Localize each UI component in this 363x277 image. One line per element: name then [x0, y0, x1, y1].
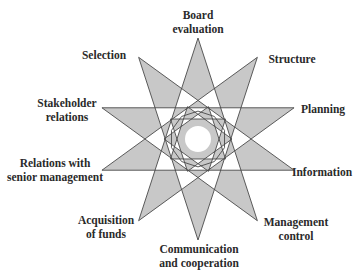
label-selection: Selection	[82, 48, 126, 62]
label-planning: Planning	[301, 102, 345, 116]
label-management-control: Management control	[264, 215, 329, 243]
label-line: and cooperation	[159, 256, 239, 270]
label-board-evaluation: Board evaluation	[172, 8, 223, 36]
label-line: relations	[37, 110, 96, 124]
label-line: control	[264, 229, 329, 243]
label-information: Information	[292, 165, 352, 179]
label-line: of funds	[78, 227, 134, 241]
label-line: Selection	[82, 48, 126, 62]
label-structure: Structure	[268, 52, 315, 66]
star-diagram: Board evaluation Structure Planning Info…	[0, 0, 363, 277]
label-line: Stakeholder	[37, 96, 96, 110]
star-fill-shape	[102, 38, 294, 240]
label-line: Planning	[301, 102, 345, 116]
label-line: Board	[172, 8, 223, 22]
label-stakeholder-relations: Stakeholder relations	[37, 96, 96, 124]
label-acquisition-of-funds: Acquisition of funds	[78, 213, 134, 241]
label-line: senior management	[7, 170, 103, 184]
label-line: Structure	[268, 52, 315, 66]
label-line: Communication	[159, 242, 239, 256]
label-line: Acquisition	[78, 213, 134, 227]
label-relations-with-senior-management: Relations with senior management	[7, 156, 103, 184]
label-communication-and-cooperation: Communication and cooperation	[159, 242, 239, 270]
label-line: Information	[292, 165, 352, 179]
label-line: evaluation	[172, 22, 223, 36]
label-line: Management	[264, 215, 329, 229]
label-line: Relations with	[7, 156, 103, 170]
